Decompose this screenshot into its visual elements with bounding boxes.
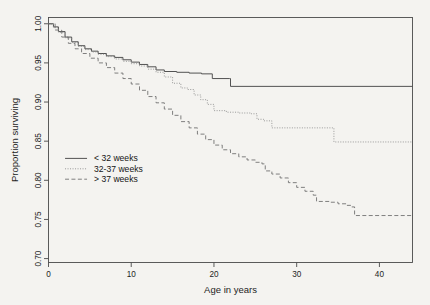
- survival-curve: [49, 24, 413, 216]
- y-axis-tick-label: 0.80: [34, 172, 43, 188]
- y-axis-tick-label: 0.70: [34, 250, 43, 266]
- x-axis-title: Age in years: [204, 284, 257, 295]
- y-axis-tick-label: 0.85: [34, 133, 43, 149]
- y-axis-tick-label: 0.75: [34, 211, 43, 227]
- legend-item-label: > 37 weeks: [94, 174, 138, 184]
- x-axis-tick-label: 20: [209, 270, 219, 279]
- legend-item-label: < 32 weeks: [94, 153, 138, 163]
- chart-canvas: 0102030400.700.750.800.850.900.951.00Age…: [0, 0, 430, 305]
- y-axis-tick-label: 0.95: [34, 54, 43, 70]
- legend-item-label: 32-37 weeks: [94, 164, 143, 174]
- y-axis-tick-label: 1.00: [34, 15, 43, 31]
- x-axis-tick-label: 10: [127, 270, 137, 279]
- survival-curve-figure: 0102030400.700.750.800.850.900.951.00Age…: [0, 0, 430, 305]
- x-axis-tick-label: 0: [46, 270, 51, 279]
- y-axis-tick-label: 0.90: [34, 94, 43, 110]
- x-axis-tick-label: 30: [292, 270, 302, 279]
- x-axis-tick-label: 40: [375, 270, 385, 279]
- y-axis-title: Proportion surviving: [9, 98, 20, 182]
- survival-curve: [49, 24, 413, 87]
